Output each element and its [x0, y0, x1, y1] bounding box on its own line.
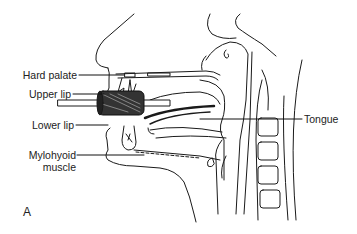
- label-mylohyoid-line2: muscle: [4, 161, 76, 173]
- anatomical-diagram: Hard palate Upper lip Lower lip Mylohyoi…: [0, 0, 357, 234]
- label-upper-lip: Upper lip: [4, 88, 71, 100]
- nasal-structures: [202, 14, 277, 70]
- label-hard-palate: Hard palate: [4, 69, 77, 81]
- lip-tube-device: [58, 91, 170, 115]
- panel-letter: A: [23, 205, 31, 219]
- pharynx: [200, 42, 252, 214]
- label-mylohyoid-line1: Mylohyoid: [4, 149, 76, 161]
- label-lower-lip: Lower lip: [4, 119, 74, 131]
- label-tongue: Tongue: [304, 113, 338, 125]
- cervical-spine: [256, 70, 288, 220]
- neck-posterior-contour: [293, 60, 302, 220]
- hard-palate: [116, 71, 220, 80]
- tongue: [145, 92, 226, 138]
